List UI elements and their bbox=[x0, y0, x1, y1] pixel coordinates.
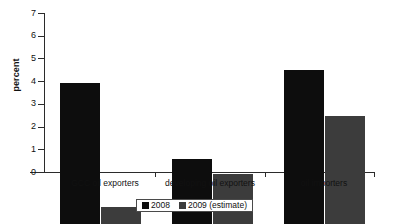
legend-swatch-2009-icon bbox=[179, 202, 186, 209]
y-tick-mark-6 bbox=[38, 36, 44, 37]
y-tick-mark-1 bbox=[38, 149, 44, 150]
bar-2008-developing-oil-exporters bbox=[172, 159, 212, 224]
x-axis-separator-3 bbox=[374, 172, 375, 177]
y-tick-mark-3 bbox=[38, 104, 44, 105]
y-tick-label-5: 5 bbox=[22, 54, 36, 63]
y-tick-mark-0 bbox=[38, 172, 44, 173]
bar-2008-oil-importers bbox=[284, 70, 324, 224]
y-axis-title: percent bbox=[11, 45, 21, 105]
x-axis-label-gcc-oil-exporters: GCC oil exporters bbox=[50, 178, 160, 189]
bar-2009-oil-importers bbox=[325, 116, 365, 224]
y-tick-mark-2 bbox=[38, 127, 44, 128]
x-axis-separator-2 bbox=[265, 172, 266, 177]
legend-swatch-2008-icon bbox=[142, 202, 149, 209]
y-tick-label-7: 7 bbox=[22, 9, 36, 18]
y-tick-mark-7 bbox=[38, 13, 44, 14]
y-tick-mark-4 bbox=[38, 81, 44, 82]
y-tick-mark-5 bbox=[38, 58, 44, 59]
bar-group-oil-importers bbox=[284, 65, 374, 224]
x-axis-label-oil-importers: oil importers bbox=[274, 178, 374, 189]
legend-label-2008: 2008 bbox=[151, 201, 170, 210]
y-tick-label-3: 3 bbox=[22, 99, 36, 108]
legend-item-2008: 2008 bbox=[142, 201, 170, 210]
y-tick-label-6: 6 bbox=[22, 31, 36, 40]
x-axis-label-developing-oil-exporters: developing oil exporters bbox=[155, 178, 265, 189]
x-axis-separator-1 bbox=[155, 172, 156, 177]
bar-2008-gcc-oil-exporters bbox=[60, 83, 100, 224]
y-tick-label-1: 1 bbox=[22, 145, 36, 154]
legend-item-2009: 2009 (estimate) bbox=[179, 201, 247, 210]
y-tick-label-4: 4 bbox=[22, 77, 36, 86]
chart-legend: 2008 2009 (estimate) bbox=[136, 199, 253, 212]
legend-label-2009: 2009 (estimate) bbox=[188, 201, 247, 210]
y-axis-line bbox=[44, 13, 45, 173]
bar-2009-gcc-oil-exporters bbox=[101, 207, 141, 224]
bar-chart-figure: percent 0 1 2 3 4 5 6 7 GCC oil exporter… bbox=[0, 0, 396, 224]
y-tick-label-0: 0 bbox=[22, 168, 36, 177]
y-tick-label-2: 2 bbox=[22, 122, 36, 131]
